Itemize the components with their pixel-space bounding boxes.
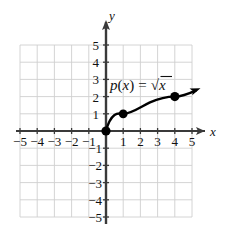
x-tick-label: −2 (65, 134, 79, 149)
y-tick-label: 5 (93, 38, 100, 53)
x-tick-label: 5 (189, 134, 196, 149)
y-tick-label: −1 (88, 141, 102, 156)
x-tick-label: 4 (172, 134, 179, 149)
x-tick-label: 1 (120, 134, 127, 149)
y-tick-label: 2 (93, 90, 100, 105)
x-tick-label: 3 (154, 134, 161, 149)
graph-figure: −5 −4 −3 −2 −1 1 2 3 4 5 5 4 3 2 1 −1 −2… (0, 0, 227, 233)
y-tick-label: −5 (88, 210, 102, 225)
data-point (170, 92, 179, 101)
x-tick-label: −3 (47, 134, 61, 149)
x-tick-label: −4 (30, 134, 44, 149)
x-tick-label: 2 (137, 134, 144, 149)
x-tick-label: −5 (13, 134, 27, 149)
y-tick-label: 1 (93, 107, 100, 122)
y-tick-label: −3 (88, 176, 102, 191)
y-tick-label: 4 (93, 55, 100, 70)
function-label-radicand: x (158, 77, 166, 93)
function-label-close-paren: ) (129, 77, 134, 94)
y-tick-label: 3 (93, 72, 100, 87)
x-axis-label: x (209, 124, 216, 139)
y-tick-label: −2 (88, 158, 102, 173)
y-axis-label: y (107, 8, 115, 23)
y-tick-label: −4 (88, 193, 102, 208)
data-point (101, 126, 110, 135)
data-point (119, 109, 128, 118)
function-label-equals: = (138, 77, 146, 93)
svg-text:p(x)=√x: p(x)=√x (109, 77, 166, 94)
function-label: p(x)=√x (109, 77, 172, 95)
